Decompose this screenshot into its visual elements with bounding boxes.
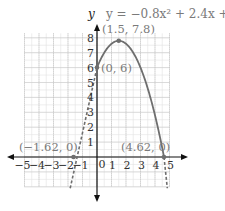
axes [7, 24, 188, 202]
y-tick-label: 3 [87, 106, 94, 119]
parabola-chart: −5−4−3−2−112345012345678 yy = −0.8x² + 2… [0, 0, 225, 211]
x-tick-label: 2 [124, 159, 131, 172]
y-tick-label: 4 [87, 91, 94, 104]
equation-label: y = −0.8x² + 2.4x + 6 [105, 7, 225, 21]
y-tick-label: 6 [87, 62, 94, 75]
right-root-label: (4.62, 0) [121, 140, 170, 154]
y-tick-label: 5 [87, 77, 94, 90]
y-intercept-label: (0, 6) [101, 61, 132, 75]
y-tick-label: 8 [87, 32, 94, 45]
y-tick-label: 1 [87, 136, 94, 149]
left-root-label: (−1.62, 0) [19, 140, 78, 154]
x-axis-arrow-left-icon [7, 154, 14, 160]
vertex-label: (1.5, 7.8) [102, 22, 155, 36]
right-root-point [162, 155, 167, 160]
x-tick-label: 1 [109, 159, 116, 172]
annotations: yy = −0.8x² + 2.4x + 6(1.5, 7.8)(0, 6)(−… [19, 7, 225, 154]
y-axis-arrow-down-icon [94, 195, 100, 202]
x-axis-arrow-right-icon [181, 154, 188, 160]
x-tick-label: 4 [153, 159, 160, 172]
y-intercept-point [95, 65, 100, 70]
y-tick-label: 2 [87, 121, 94, 134]
y-axis-arrow-up-icon [94, 24, 100, 31]
y-axis-label: y [87, 7, 95, 21]
x-tick-label: −1 [72, 159, 88, 172]
origin-label: 0 [99, 158, 106, 171]
x-tick-label: 3 [138, 159, 145, 172]
y-tick-label: 7 [87, 47, 94, 60]
vertex-point [116, 38, 121, 43]
x-tick-label: 5 [167, 159, 174, 172]
